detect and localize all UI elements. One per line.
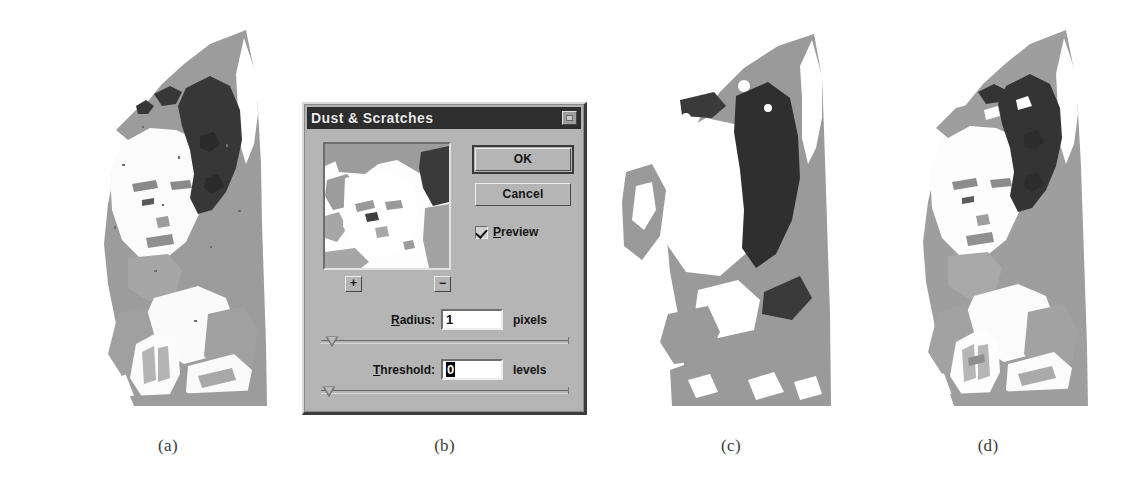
panel-c: (c) xyxy=(622,14,840,416)
radius-units: pixels xyxy=(513,313,547,327)
radius-input[interactable]: 1 xyxy=(441,309,503,330)
radius-slider-thumb[interactable] xyxy=(326,336,338,346)
panel-c-image xyxy=(622,14,840,416)
radius-label: Radius: xyxy=(361,313,435,327)
ok-button[interactable]: OK xyxy=(475,148,571,171)
preview-thumbnail[interactable] xyxy=(323,142,451,270)
preview-label-rest: review xyxy=(501,225,538,239)
threshold-slider-thumb[interactable] xyxy=(323,386,335,396)
threshold-slider[interactable] xyxy=(321,386,569,400)
preview-checkbox-label: Preview xyxy=(493,225,538,239)
threshold-input[interactable]: 0 xyxy=(441,359,503,380)
posterized-child-original xyxy=(58,14,278,416)
threshold-row: Threshold: 0 levels xyxy=(317,359,573,405)
posterized-child-cleaned xyxy=(880,14,1096,416)
posterized-child-blobby xyxy=(622,14,840,416)
dialog-body: + − OK Cancel Preview Radius: 1 pixels xyxy=(307,131,581,409)
panel-c-caption: (c) xyxy=(622,436,840,456)
preview-checkbox-row[interactable]: Preview xyxy=(475,225,538,239)
radius-value: 1 xyxy=(446,312,453,327)
preview-zoom-controls: + − xyxy=(323,276,451,293)
zoom-out-button[interactable]: − xyxy=(434,276,451,292)
radius-slider-end-tick xyxy=(568,337,569,344)
threshold-units: levels xyxy=(513,363,546,377)
preview-label-accel: P xyxy=(493,225,501,239)
radius-label-accel: R xyxy=(391,313,400,327)
preview-checkbox[interactable] xyxy=(475,226,488,239)
close-icon[interactable] xyxy=(562,111,577,125)
panel-a: (a) xyxy=(58,14,278,416)
panel-a-caption: (a) xyxy=(58,436,278,456)
radius-label-rest: adius: xyxy=(400,313,435,327)
figure-root: (a) (b) Dust & Scratches xyxy=(0,0,1134,495)
dialog-titlebar[interactable]: Dust & Scratches xyxy=(307,107,581,129)
threshold-slider-track xyxy=(321,390,569,394)
panel-b-caption: (b) xyxy=(302,436,587,456)
cancel-button[interactable]: Cancel xyxy=(475,183,571,206)
dust-and-scratches-dialog: Dust & Scratches xyxy=(302,102,587,415)
threshold-label: Threshold: xyxy=(331,363,435,377)
threshold-value: 0 xyxy=(446,362,455,377)
panel-d: (d) xyxy=(880,14,1096,416)
radius-slider-track xyxy=(321,340,569,344)
panel-a-image xyxy=(58,14,278,416)
threshold-label-rest: hreshold: xyxy=(380,363,435,377)
preview-thumbnail-image xyxy=(325,144,449,268)
radius-slider[interactable] xyxy=(321,336,569,350)
panel-d-image xyxy=(880,14,1096,416)
threshold-slider-end-tick xyxy=(568,387,569,394)
dialog-title: Dust & Scratches xyxy=(311,110,433,126)
radius-row: Radius: 1 pixels xyxy=(317,309,573,355)
panel-d-caption: (d) xyxy=(880,436,1096,456)
zoom-in-button[interactable]: + xyxy=(345,276,362,292)
